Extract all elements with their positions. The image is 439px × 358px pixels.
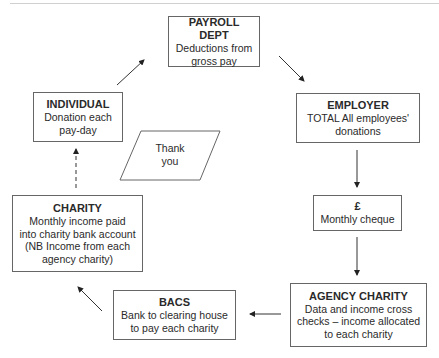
node-charity: CHARITY Monthly income paid into charity… — [12, 195, 143, 272]
node-desc: Donation each pay-day — [44, 111, 112, 136]
node-title: PAYROLL DEPT — [173, 16, 255, 42]
arrow-individual-to-payroll — [117, 60, 144, 85]
pound-icon: £ — [354, 200, 360, 213]
node-monthly-cheque: £ Monthly cheque — [313, 195, 402, 231]
node-title: AGENCY CHARITY — [309, 290, 408, 303]
node-desc: Data and income cross checks – income al… — [297, 303, 420, 341]
node-title: CHARITY — [53, 202, 102, 215]
arrow-payroll-to-employer — [279, 56, 304, 81]
node-desc: TOTAL All employees' donations — [307, 112, 409, 137]
node-desc: Monthly cheque — [320, 213, 394, 226]
node-employer: EMPLOYER TOTAL All employees' donations — [296, 93, 420, 143]
node-payroll-dept: PAYROLL DEPT Deductions from gross pay — [168, 16, 260, 67]
node-title: INDIVIDUAL — [47, 98, 110, 111]
node-title: BACS — [159, 296, 190, 309]
node-agency-charity: AGENCY CHARITY Data and income cross che… — [290, 283, 427, 347]
thank-you-label: Thank you — [140, 142, 200, 168]
node-individual: INDIVIDUAL Donation each pay-day — [33, 92, 123, 142]
node-desc: Monthly income paid into charity bank ac… — [19, 215, 135, 265]
node-desc: Bank to clearing house to pay each chari… — [121, 309, 228, 334]
node-desc: Deductions from gross pay — [176, 42, 252, 67]
arrow-bacs-to-charity — [78, 287, 102, 311]
node-title: EMPLOYER — [327, 99, 389, 112]
node-bacs: BACS Bank to clearing house to pay each … — [113, 290, 236, 340]
